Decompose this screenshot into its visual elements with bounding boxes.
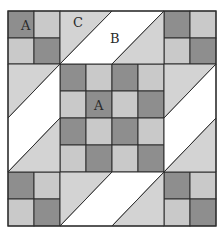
four-patch-square-light (34, 172, 60, 199)
four-patch-square-light (34, 11, 60, 38)
center-square-light (138, 118, 164, 145)
quilt-diagram: ACBA (0, 0, 224, 242)
center-square-light (138, 64, 164, 91)
center-square-light (112, 91, 138, 118)
piece-label-b: B (110, 31, 120, 46)
four-patch-square-light (164, 199, 190, 226)
four-patch-square-dark (190, 38, 216, 64)
center-square-dark (86, 145, 112, 172)
center-square-light (112, 145, 138, 172)
center-square-light (86, 118, 112, 145)
center-square-light (60, 91, 86, 118)
center-square-dark (60, 118, 86, 145)
four-patch-square-dark (164, 172, 190, 199)
piece-label-a: A (93, 98, 104, 113)
four-patch-square-light (190, 172, 216, 199)
four-patch-square-light (8, 38, 34, 64)
center-square-dark (60, 64, 86, 91)
four-patch-square-light (8, 199, 34, 226)
four-patch-square-dark (34, 38, 60, 64)
center-square-dark (138, 145, 164, 172)
center-square-light (86, 64, 112, 91)
four-patch-square-dark (34, 199, 60, 226)
piece-label-c: C (73, 15, 83, 30)
four-patch-square-dark (8, 172, 34, 199)
quilt-block-svg: ACBA (0, 0, 224, 242)
center-square-dark (112, 118, 138, 145)
four-patch-square-light (190, 11, 216, 38)
center-square-light (60, 145, 86, 172)
four-patch-square-light (164, 38, 190, 64)
piece-label-a: A (20, 18, 31, 33)
center-square-dark (138, 91, 164, 118)
four-patch-square-dark (190, 199, 216, 226)
four-patch-square-dark (164, 11, 190, 38)
center-square-dark (112, 64, 138, 91)
